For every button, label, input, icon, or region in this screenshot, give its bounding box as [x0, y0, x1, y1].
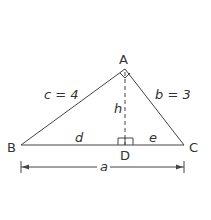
arrowhead-right-icon [176, 165, 183, 170]
diagram-canvas: A B C D c = 4 b = 3 h d e a [0, 0, 211, 220]
segment-label-d: d [75, 130, 84, 145]
vertex-label-c: C [189, 140, 198, 155]
side-c [21, 69, 125, 145]
side-label-a: a [100, 159, 108, 174]
side-label-c: c = 4 [44, 87, 79, 102]
vertex-label-d: D [120, 148, 130, 163]
side-label-b: b = 3 [155, 87, 191, 102]
arrowhead-left-icon [22, 165, 29, 170]
segment-label-e: e [149, 130, 157, 145]
side-label-h: h [114, 101, 122, 116]
triangle-diagram: A B C D c = 4 b = 3 h d e a [0, 0, 211, 220]
vertex-label-b: B [7, 140, 16, 155]
vertex-label-a: A [119, 52, 128, 67]
